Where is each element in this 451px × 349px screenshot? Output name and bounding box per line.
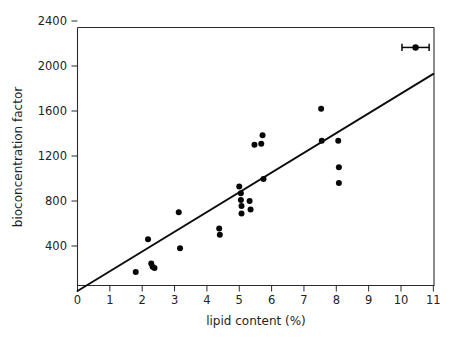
x-tick-label: 7 (300, 293, 307, 307)
x-tick-label: 3 (171, 293, 178, 307)
data-point (239, 203, 245, 209)
data-point (238, 190, 244, 196)
x-tick-label: 11 (426, 293, 441, 307)
error-bar-marker (402, 44, 429, 51)
data-point (239, 210, 245, 216)
y-tick-label: 1200 (38, 149, 67, 163)
data-point (216, 226, 222, 232)
x-tick-label: 0 (74, 293, 81, 307)
data-point (248, 206, 254, 212)
x-tick-label: 4 (203, 293, 210, 307)
y-tick-label: 1600 (38, 104, 67, 118)
plot-axes (78, 28, 435, 287)
data-point (177, 245, 183, 251)
data-point (318, 106, 324, 112)
x-tick-label: 10 (394, 293, 409, 307)
data-point (236, 183, 242, 189)
y-tick-label: 2400 (38, 14, 67, 28)
data-point (319, 138, 325, 144)
data-point (247, 198, 253, 204)
x-axis-title: lipid content (%) (206, 314, 306, 328)
y-axis-title: bioconcentration factor (11, 87, 25, 227)
y-tick-label: 400 (45, 239, 67, 253)
data-point (261, 176, 267, 182)
data-point (251, 142, 257, 148)
trend-line-segment (78, 74, 434, 291)
data-point (260, 132, 266, 138)
data-point (336, 164, 342, 170)
data-point (176, 209, 182, 215)
data-point (145, 236, 151, 242)
scatter-plot-figure: 4008001200160020002400 01234567891011 li… (0, 0, 451, 349)
x-axis-ticks: 01234567891011 (74, 286, 441, 308)
y-axis-ticks: 4008001200160020002400 (38, 14, 78, 253)
data-point (258, 141, 264, 147)
data-point (151, 265, 157, 271)
x-tick-label: 5 (236, 293, 243, 307)
x-tick-label: 6 (268, 293, 275, 307)
error-bar-center-point (412, 44, 418, 50)
regression-trend-line (78, 74, 434, 291)
y-tick-label: 2000 (38, 59, 67, 73)
data-point (217, 232, 223, 238)
x-tick-label: 1 (106, 293, 113, 307)
data-point (335, 138, 341, 144)
x-tick-label: 2 (139, 293, 146, 307)
x-tick-label: 9 (365, 293, 372, 307)
x-tick-label: 8 (333, 293, 340, 307)
y-tick-label: 800 (45, 194, 67, 208)
data-point (238, 197, 244, 203)
scatter-points-group (133, 106, 342, 275)
data-point (133, 269, 139, 275)
data-point (336, 180, 342, 186)
bioconcentration-vs-lipid-scatter-chart: 4008001200160020002400 01234567891011 li… (0, 0, 451, 349)
